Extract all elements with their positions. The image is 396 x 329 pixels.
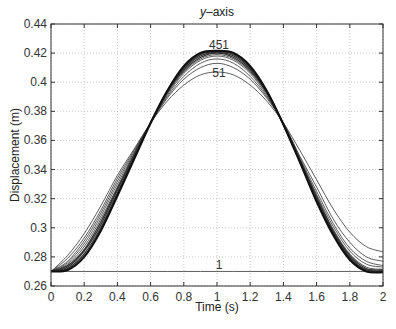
x-tick-label: 0 [48, 290, 55, 304]
y-tick-label: 0.36 [24, 133, 48, 147]
y-axis-label: Displacement (m) [8, 108, 22, 202]
x-tick-label: 0.8 [175, 290, 192, 304]
x-axis-label: Time (s) [195, 300, 239, 314]
annotation-label: 451 [209, 38, 229, 52]
y-tick-label: 0.26 [24, 279, 48, 293]
y-tick-label: 0.44 [24, 17, 48, 31]
y-tick-label: 0.38 [24, 104, 48, 118]
y-tick-label: 0.28 [24, 250, 48, 264]
x-tick-label: 1.4 [275, 290, 292, 304]
x-tick-label: 0.4 [109, 290, 126, 304]
x-tick-label: 2 [380, 290, 387, 304]
chart: 00.20.40.60.811.21.41.61.820.260.280.30.… [0, 0, 396, 329]
series-line-201 [51, 56, 383, 271]
x-tick-label: 1.2 [242, 290, 259, 304]
series-line-351 [51, 52, 383, 271]
x-tick-label: 1.6 [308, 290, 325, 304]
y-tick-label: 0.3 [30, 221, 47, 235]
y-tick-label: 0.34 [24, 163, 48, 177]
y-tick-label: 0.32 [24, 192, 48, 206]
x-tick-label: 0.2 [76, 290, 93, 304]
y-tick-label: 0.42 [24, 46, 48, 60]
annotations: 451511 [209, 38, 229, 272]
annotation-label: 1 [216, 258, 223, 272]
y-tick-label: 0.4 [30, 75, 47, 89]
x-tick-label: 0.6 [142, 290, 159, 304]
x-tick-label: 1.8 [341, 290, 358, 304]
chart-title: y–axis [199, 5, 234, 19]
annotation-label: 51 [212, 66, 226, 80]
